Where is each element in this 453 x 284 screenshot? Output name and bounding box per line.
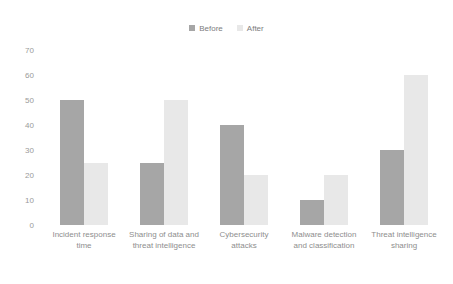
chart-legend: BeforeAfter	[0, 22, 453, 34]
bar-before[interactable]	[300, 200, 324, 225]
bar-after[interactable]	[404, 75, 428, 225]
x-axis-category-label: Malware detection and classification	[284, 229, 364, 269]
bar-after[interactable]	[244, 175, 268, 225]
y-axis-tick-label: 10	[25, 196, 34, 205]
bar-before[interactable]	[380, 150, 404, 225]
x-axis-category-label: Incident response time	[44, 229, 124, 269]
bar-groups	[44, 50, 444, 225]
y-axis-tick-label: 0	[30, 221, 34, 230]
bar-after[interactable]	[164, 100, 188, 225]
y-axis-tick-label: 40	[25, 121, 34, 130]
y-axis-tick-label: 70	[25, 46, 34, 55]
bar-after[interactable]	[324, 175, 348, 225]
legend-item-label: Before	[199, 24, 223, 33]
plot-area	[44, 50, 444, 225]
legend-swatch-icon	[237, 25, 243, 31]
bar-before[interactable]	[220, 125, 244, 225]
bar-group	[364, 50, 444, 225]
x-axis-category-label: Cybersecurity attacks	[204, 229, 284, 269]
bar-after[interactable]	[84, 163, 108, 226]
x-axis: Incident response timeSharing of data an…	[44, 229, 444, 269]
y-axis: 010203040506070	[0, 50, 40, 225]
bar-group	[284, 50, 364, 225]
y-axis-tick-label: 30	[25, 146, 34, 155]
legend-swatch-icon	[189, 25, 195, 31]
y-axis-tick-label: 60	[25, 71, 34, 80]
y-axis-tick-label: 20	[25, 171, 34, 180]
x-axis-category-label: Sharing of data and threat intelligence	[124, 229, 204, 269]
legend-item-after[interactable]: After	[237, 24, 264, 33]
bar-group	[44, 50, 124, 225]
bar-chart: BeforeAfter 010203040506070 Incident res…	[0, 0, 453, 284]
bar-before[interactable]	[60, 100, 84, 225]
bar-group	[124, 50, 204, 225]
bar-group	[204, 50, 284, 225]
x-axis-category-label: Threat intelligence sharing	[364, 229, 444, 269]
bar-before[interactable]	[140, 163, 164, 226]
y-axis-tick-label: 50	[25, 96, 34, 105]
legend-item-label: After	[247, 24, 264, 33]
legend-item-before[interactable]: Before	[189, 24, 223, 33]
